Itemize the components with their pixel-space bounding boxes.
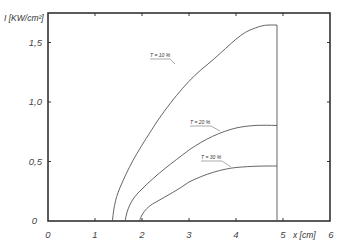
y-tick-0: 0 [32, 215, 38, 226]
intensity-chart: 0 1 2 3 4 5 6 x [cm] 0 0,5 1,0 1,5 I [KW… [0, 0, 345, 249]
x-tick-3: 3 [186, 229, 192, 240]
curve-t-30 [140, 166, 277, 221]
plot-frame [48, 13, 330, 221]
y-axis-ticks [48, 43, 330, 162]
x-axis-ticks [95, 13, 283, 221]
y-axis-title: I [KW/cm²] [4, 13, 44, 23]
label-t-20: T = 20 % [190, 119, 220, 131]
label-t-30: T = 30 % [201, 154, 231, 167]
y-tick-1-0: 1,0 [29, 96, 43, 107]
y-tick-1-5: 1,5 [29, 37, 43, 48]
x-axis-title: x [cm] [292, 230, 316, 240]
svg-text:T = 20 %: T = 20 % [190, 119, 211, 125]
label-t-10: T = 10 % [150, 52, 175, 64]
x-tick-2: 2 [138, 229, 145, 240]
x-tick-0: 0 [45, 229, 51, 240]
y-tick-0-5: 0,5 [29, 156, 43, 167]
curve-t-20 [125, 125, 277, 221]
x-tick-5: 5 [280, 229, 286, 240]
x-tick-6: 6 [328, 229, 334, 240]
x-tick-4: 4 [233, 229, 238, 240]
x-tick-1: 1 [92, 229, 97, 240]
svg-text:T = 10 %: T = 10 % [150, 52, 171, 58]
svg-text:T = 30 %: T = 30 % [201, 154, 222, 160]
